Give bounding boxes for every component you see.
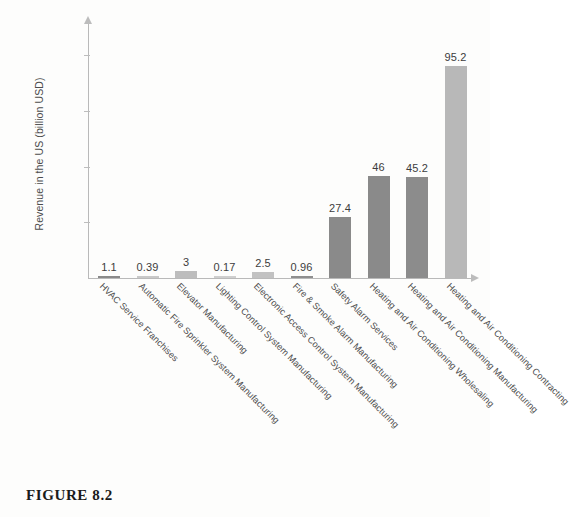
bar-rect: [368, 176, 390, 278]
bar-value-label: 46: [372, 161, 384, 173]
bar-rect: [445, 66, 467, 278]
bar[interactable]: 0.17: [214, 22, 236, 278]
bar[interactable]: 0.96: [291, 22, 313, 278]
bar-rect: [329, 217, 351, 278]
x-axis-category-labels: HVAC Service FranchisesAutomatic Fire Sp…: [88, 281, 473, 471]
bar[interactable]: 46: [368, 22, 390, 278]
bar-value-label: 0.96: [291, 261, 313, 273]
y-axis-title: Revenue in the US (billion USD): [33, 64, 45, 244]
bar-value-label: 1.1: [101, 261, 117, 273]
bar-value-label: 0.39: [137, 261, 159, 273]
bar[interactable]: 0.39: [137, 22, 159, 278]
x-axis-category-label: Electronic Access Control System Manufac…: [252, 281, 401, 430]
bar-rect: [291, 276, 313, 279]
bar-rect: [214, 276, 236, 279]
figure-caption: FIGURE 8.2: [26, 487, 113, 504]
bar-value-label: 2.5: [255, 257, 271, 269]
bar[interactable]: 1.1: [98, 22, 120, 278]
x-axis-category-label: HVAC Service Franchises: [98, 281, 180, 363]
bar-value-label: 45.2: [406, 162, 428, 174]
x-axis-category-label: Automatic Fire Sprinkler System Manufact…: [136, 281, 280, 425]
bar[interactable]: 45.2: [406, 22, 428, 278]
bar-value-label: 0.17: [214, 261, 236, 273]
x-axis-category-label: Elevator Manufacturing: [175, 281, 250, 356]
bar-rect: [406, 177, 428, 278]
bar[interactable]: 95.2: [445, 22, 467, 278]
bar[interactable]: 27.4: [329, 22, 351, 278]
bar-value-label: 3: [183, 256, 189, 268]
bar-value-label: 95.2: [445, 51, 467, 63]
bar-rect: [137, 276, 159, 279]
bar-chart: Revenue in the US (billion USD) 10075502…: [0, 0, 490, 470]
bar-rect: [252, 272, 274, 278]
bar-rect: [98, 276, 120, 279]
bar[interactable]: 3: [175, 22, 197, 278]
bars-layer: 1.10.3930.172.50.9627.44645.295.2: [88, 22, 473, 278]
x-axis-line: [88, 278, 473, 279]
bar[interactable]: 2.5: [252, 22, 274, 278]
bar-value-label: 27.4: [329, 202, 351, 214]
bar-rect: [175, 271, 197, 278]
x-axis-category-label: Safety Alarm Services: [329, 281, 400, 352]
